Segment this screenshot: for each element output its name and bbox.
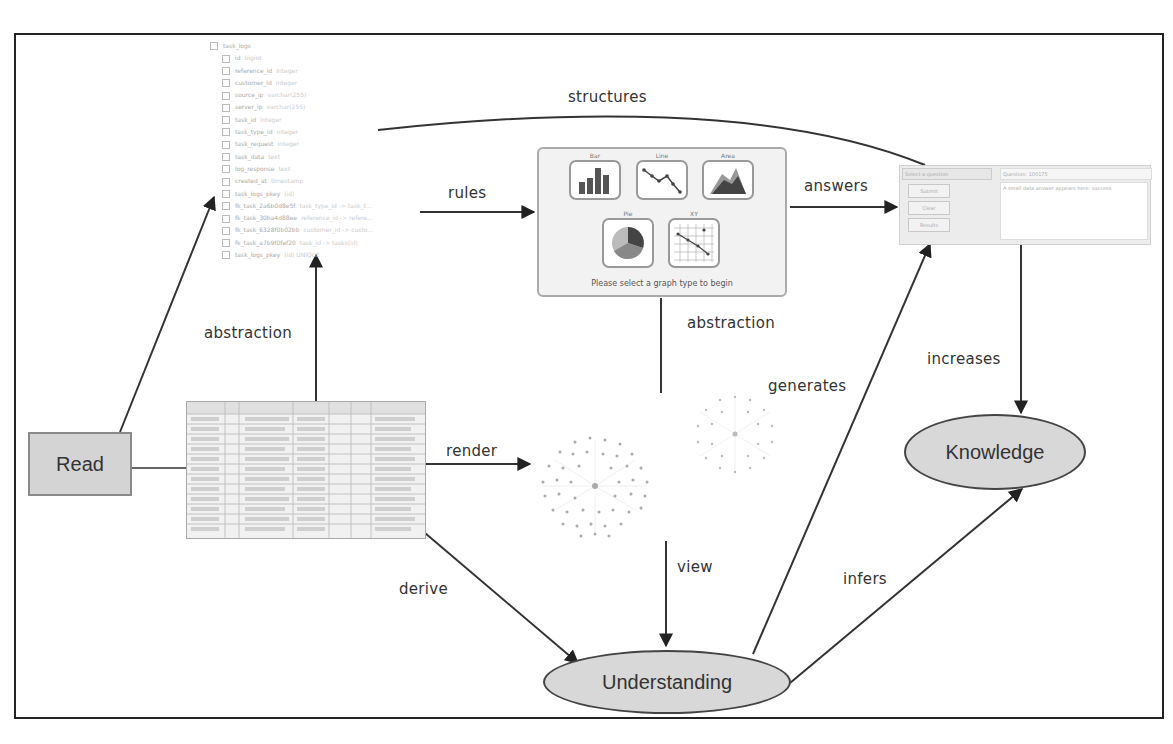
node-understanding: Understanding xyxy=(543,650,791,714)
data-table-grid xyxy=(187,402,425,538)
schema-field: fk_task_30ba4d88eereference_id -> refere… xyxy=(222,212,410,224)
results-button[interactable]: Results xyxy=(908,218,950,232)
column-icon xyxy=(222,79,230,87)
qa-controls: Select a question Submit Clear Results xyxy=(902,168,998,240)
chart-type-label: Line xyxy=(636,152,688,159)
column-icon xyxy=(222,116,230,124)
schema-field: task_requestinteger xyxy=(222,138,410,150)
schema-field: fk_task_6328f0b02bbcustomer_id -> custo.… xyxy=(222,224,410,236)
network-graph-large xyxy=(535,430,655,542)
node-read: Read xyxy=(28,432,132,496)
chart-type-label: Bar xyxy=(569,152,621,159)
diagram-frame xyxy=(14,33,1164,719)
schema-field: log_responsetext xyxy=(222,163,410,175)
column-icon xyxy=(222,153,230,161)
schema-field: customer_idinteger xyxy=(222,77,410,89)
schema-field: task_logs_pkey(id) xyxy=(222,188,410,200)
schema-field: idbigint xyxy=(222,52,410,64)
clear-button[interactable]: Clear xyxy=(908,201,950,215)
foreign-key-icon xyxy=(222,227,230,235)
pie-chart-icon xyxy=(604,220,652,266)
schema-root: task_logs xyxy=(210,40,410,52)
label-derive: derive xyxy=(399,580,448,598)
chart-type-pie[interactable] xyxy=(602,218,654,268)
answer-area[interactable]: A small data answer appears here: succes… xyxy=(1000,182,1148,240)
schema-field: created_attimestamp xyxy=(222,175,410,187)
label-render: render xyxy=(446,442,497,460)
chart-type-bar[interactable] xyxy=(569,160,621,200)
column-icon xyxy=(222,55,230,63)
chart-type-label: Pie xyxy=(602,210,654,217)
schema-field: fk_task_a7b9f0fef20task_id -> tasks(id) xyxy=(222,237,410,249)
schema-field: task_logs_pkey(id) UNIQUE xyxy=(222,249,410,261)
chart-type-label: Area xyxy=(702,152,754,159)
label-answers: answers xyxy=(804,177,868,195)
area-chart-icon xyxy=(704,162,752,198)
submit-button[interactable]: Submit xyxy=(908,184,950,198)
label-infers: infers xyxy=(843,570,887,588)
label-abstraction-left: abstraction xyxy=(204,324,292,342)
column-icon xyxy=(222,128,230,136)
foreign-key-icon xyxy=(222,239,230,247)
xy-chart-icon xyxy=(670,220,718,266)
schema-field: source_ipvarchar(255) xyxy=(222,89,410,101)
label-generates: generates xyxy=(768,377,846,395)
column-icon xyxy=(222,178,230,186)
network-graph-small xyxy=(690,392,780,477)
schema-field: server_ipvarchar(255) xyxy=(222,101,410,113)
schema-field: task_idinteger xyxy=(222,114,410,126)
chart-type-xy[interactable] xyxy=(668,218,720,268)
foreign-key-icon xyxy=(222,215,230,223)
schema-field: task_type_idinteger xyxy=(222,126,410,138)
question-select[interactable]: Select a question xyxy=(902,168,992,180)
node-knowledge: Knowledge xyxy=(904,414,1086,490)
schema-tree: task_logs idbigint reference_idinteger c… xyxy=(210,40,410,261)
label-abstraction-mid: abstraction xyxy=(687,314,775,332)
label-rules: rules xyxy=(448,184,486,202)
column-icon xyxy=(222,92,230,100)
schema-field: reference_idinteger xyxy=(222,65,410,77)
data-table xyxy=(186,401,426,539)
table-icon xyxy=(210,42,218,50)
column-icon xyxy=(222,104,230,112)
label-structures: structures xyxy=(568,88,647,106)
column-icon xyxy=(222,141,230,149)
bar-chart-icon xyxy=(571,162,619,198)
label-increases: increases xyxy=(927,350,1001,368)
key-icon xyxy=(222,190,230,198)
index-icon xyxy=(222,251,230,259)
selector-caption: Please select a graph type to begin xyxy=(539,279,785,288)
chart-type-area[interactable] xyxy=(702,160,754,200)
chart-type-selector: Bar Line Area Pie XY xyxy=(537,147,787,297)
chart-type-label: XY xyxy=(668,210,720,217)
question-field[interactable]: Question: 100175 xyxy=(1000,168,1152,180)
column-icon xyxy=(222,165,230,173)
schema-field: task_datatext xyxy=(222,151,410,163)
chart-type-line[interactable] xyxy=(636,160,688,200)
schema-field: fk_task_2a6b0d8e5ftask_type_id -> task_t… xyxy=(222,200,410,212)
foreign-key-icon xyxy=(222,202,230,210)
qa-panel: Select a question Submit Clear Results Q… xyxy=(899,165,1151,245)
schema-fields: idbigint reference_idinteger customer_id… xyxy=(210,52,410,261)
label-view: view xyxy=(677,558,713,576)
column-icon xyxy=(222,67,230,75)
line-chart-icon xyxy=(638,162,686,198)
